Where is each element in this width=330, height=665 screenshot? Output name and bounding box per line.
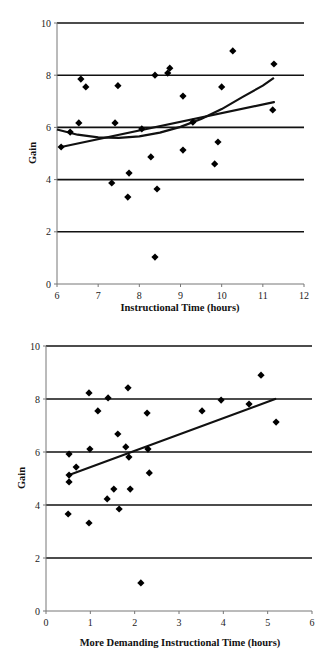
y-tick-label: 8: [46, 70, 51, 81]
y-axis-title-top: Gain: [27, 142, 38, 164]
data-point-diamond: [218, 83, 225, 90]
data-point-diamond: [211, 160, 218, 167]
x-tick-label: 6: [55, 290, 60, 301]
trendline-quadratic: [57, 78, 274, 138]
x-axis-title-top: Instructional Time (hours): [120, 302, 240, 314]
trendline-linear: [61, 102, 274, 147]
data-point-diamond: [75, 119, 82, 126]
data-point-diamond: [151, 72, 158, 79]
data-point-diamond: [270, 60, 277, 67]
x-tick-label: 12: [299, 290, 309, 301]
data-point-diamond: [65, 471, 72, 478]
data-point-diamond: [229, 47, 236, 54]
data-point-diamond: [65, 478, 72, 485]
x-tick-label: 1: [88, 617, 93, 628]
chart-instructional-time: 02468106789101112: [41, 18, 309, 302]
data-point-diamond: [124, 384, 131, 391]
x-tick-label: 11: [258, 290, 268, 301]
data-point-diamond: [257, 372, 264, 379]
x-tick-label: 3: [177, 617, 182, 628]
x-tick-label: 2: [132, 617, 137, 628]
data-point-diamond: [214, 138, 221, 145]
y-tick-label: 4: [46, 174, 51, 185]
data-point-diamond: [122, 443, 129, 450]
data-point-diamond: [179, 147, 186, 154]
x-tick-label: 8: [137, 290, 142, 301]
data-point-diamond: [94, 407, 101, 414]
y-tick-label: 10: [41, 18, 51, 29]
data-point-diamond: [85, 519, 92, 526]
data-point-diamond: [137, 579, 144, 586]
y-tick-label: 0: [35, 606, 40, 617]
data-point-diamond: [127, 486, 134, 493]
data-point-diamond: [65, 510, 72, 517]
y-tick-label: 4: [35, 500, 40, 511]
data-point-diamond: [146, 469, 153, 476]
data-point-diamond: [114, 430, 121, 437]
y-tick-label: 2: [35, 553, 40, 564]
x-tick-label: 4: [221, 617, 226, 628]
data-point-diamond: [125, 169, 132, 176]
data-point-diamond: [151, 254, 158, 261]
scatter-charts: 02468106789101112 02468100123456 Instruc…: [0, 0, 330, 665]
x-tick-label: 7: [96, 290, 101, 301]
x-tick-label: 9: [178, 290, 183, 301]
data-point-diamond: [111, 119, 118, 126]
y-tick-label: 8: [35, 394, 40, 405]
data-point-diamond: [198, 407, 205, 414]
data-point-diamond: [179, 92, 186, 99]
x-tick-label: 0: [44, 617, 49, 628]
data-point-diamond: [116, 505, 123, 512]
x-tick-label: 6: [310, 617, 315, 628]
y-tick-label: 6: [35, 447, 40, 458]
data-point-diamond: [114, 82, 121, 89]
data-point-diamond: [147, 153, 154, 160]
data-point-diamond: [153, 185, 160, 192]
chart-demanding-instructional-time: 02468100123456: [30, 341, 315, 629]
data-point-diamond: [104, 394, 111, 401]
x-axis-title-bottom: More Demanding Instructional Time (hours…: [80, 637, 281, 649]
x-tick-label: 5: [265, 617, 270, 628]
x-tick-label: 10: [217, 290, 227, 301]
data-point-diamond: [77, 76, 84, 83]
data-point-diamond: [73, 464, 80, 471]
data-point-diamond: [218, 396, 225, 403]
y-tick-label: 10: [30, 341, 40, 352]
y-axis-title-bottom: Gain: [16, 467, 27, 489]
data-point-diamond: [82, 83, 89, 90]
data-point-diamond: [104, 495, 111, 502]
data-point-diamond: [110, 486, 117, 493]
y-tick-label: 0: [46, 279, 51, 290]
data-point-diamond: [143, 409, 150, 416]
data-point-diamond: [67, 128, 74, 135]
data-point-diamond: [85, 389, 92, 396]
y-tick-label: 6: [46, 122, 51, 133]
data-point-diamond: [272, 418, 279, 425]
data-point-diamond: [58, 143, 65, 150]
data-point-diamond: [124, 193, 131, 200]
data-point-diamond: [108, 179, 115, 186]
y-tick-label: 2: [46, 226, 51, 237]
data-point-diamond: [269, 106, 276, 113]
